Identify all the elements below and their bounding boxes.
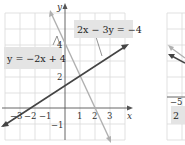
right-eq-text: 2	[173, 110, 179, 121]
line2-arrow-bottom-icon	[106, 136, 111, 143]
chart-canvas: 2x − 3y = −4 y = −2x + 4 −3 −2 −1 1 2 3 …	[0, 0, 185, 145]
tick-y-minus1: −1	[51, 120, 64, 130]
tick-y-4: 4	[57, 40, 62, 50]
tick-x-3: 3	[107, 111, 112, 121]
right-panel-partial: −5 2	[167, 13, 185, 140]
leader-eq-top	[96, 37, 102, 56]
tick-y-2: 2	[57, 72, 62, 82]
tick-x-1: 1	[77, 111, 82, 121]
tick-x-minus3: −3	[10, 111, 23, 121]
equation-left-text: y = −2x + 4	[6, 53, 66, 64]
x-axis-arrow-icon	[127, 106, 133, 111]
tick-x-minus1: −1	[39, 111, 52, 121]
line2-arrow-top-icon	[49, 10, 54, 17]
y-axis-arrow-icon	[63, 3, 68, 9]
equation-top-text: 2x − 3y = −4	[77, 24, 142, 35]
tick-x-minus2: −2	[24, 111, 37, 121]
y-axis-label: y	[56, 2, 63, 12]
equation-label-left: y = −2x + 4	[4, 47, 66, 69]
equation-label-top: 2x − 3y = −4	[74, 20, 142, 38]
tick-x-2: 2	[92, 111, 97, 121]
right-tick-label: −5	[170, 97, 183, 107]
x-axis-label: x	[127, 111, 132, 121]
right-arrow-light-icon	[168, 45, 174, 51]
